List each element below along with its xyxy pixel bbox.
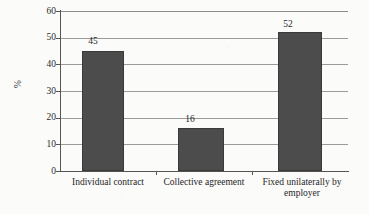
bar-value-collective-agreement: 16 — [167, 115, 213, 125]
bar-chart: % 60 50 40 30 20 10 0 45 16 52 Individua… — [0, 0, 369, 214]
x-tick-mark-1 — [156, 171, 157, 175]
x-category-label-collective-agreement: Collective agreement — [156, 177, 252, 188]
x-category-label-fixed-unilaterally-by-employer: Fixed unilaterally by employer — [250, 177, 354, 198]
y-tick-label-10: 10 — [16, 140, 56, 150]
x-category-label-line: Fixed unilaterally by — [250, 177, 354, 188]
bar-individual-contract — [82, 51, 124, 171]
x-category-label-individual-contract: Individual contract — [60, 177, 156, 188]
x-category-label-line: Collective agreement — [156, 177, 252, 188]
gridline-60 — [60, 11, 348, 12]
y-tick-label-0: 0 — [16, 167, 56, 177]
x-axis-line — [60, 171, 349, 172]
x-category-label-line: employer — [250, 188, 354, 199]
bar-collective-agreement — [178, 128, 224, 171]
bar-fixed-unilaterally-by-employer — [278, 32, 322, 171]
y-tick-label-30: 30 — [16, 87, 56, 97]
bar-value-fixed-unilaterally-by-employer: 52 — [266, 20, 310, 30]
plot-area — [60, 11, 348, 171]
bar-value-individual-contract: 45 — [72, 37, 114, 47]
x-tick-mark-2 — [252, 171, 253, 175]
y-tick-label-20: 20 — [16, 113, 56, 123]
y-tick-label-40: 40 — [16, 60, 56, 70]
y-tick-label-60: 60 — [16, 7, 56, 17]
y-axis-line — [60, 10, 61, 172]
y-tick-label-50: 50 — [16, 33, 56, 43]
x-category-label-line: Individual contract — [60, 177, 156, 188]
